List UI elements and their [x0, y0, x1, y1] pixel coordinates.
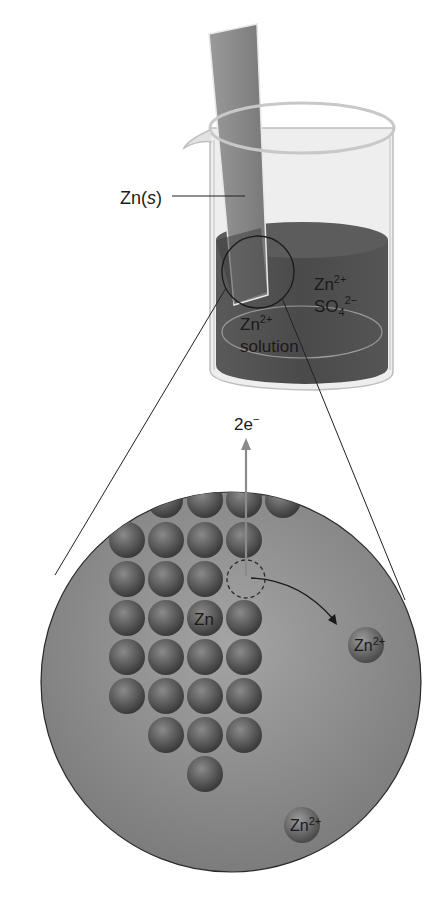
zinc-atom-label: Zn — [194, 610, 214, 629]
beaker — [184, 24, 394, 390]
svg-text:solution: solution — [240, 337, 299, 356]
magnified-view: Zn Zn2+ Zn2+ — [41, 482, 421, 872]
svg-text:Zn(s): Zn(s) — [120, 188, 162, 208]
electrons-label: 2e− — [234, 413, 259, 434]
electrochem-diagram: Zn(s) Zn2+ SO42− Zn2+ solution — [0, 0, 441, 910]
